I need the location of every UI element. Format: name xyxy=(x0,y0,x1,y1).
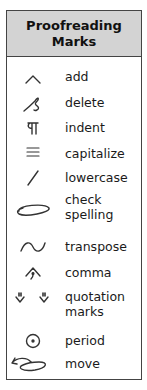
mark-label-multiline: quotation marks xyxy=(65,289,125,319)
mark-label: period xyxy=(65,333,105,348)
mark-row-capitalize: capitalize xyxy=(7,143,141,163)
mark-row-move: move xyxy=(7,354,141,376)
circled-dot-icon xyxy=(11,333,55,349)
delete-loop-icon xyxy=(11,95,55,113)
proofreading-marks-panel: Proofreading Marks add delete indent cap… xyxy=(6,10,142,380)
mark-row-lowercase: lowercase xyxy=(7,167,141,189)
mark-label: transpose xyxy=(65,239,127,254)
tilde-icon xyxy=(11,241,55,253)
mark-label: lowercase xyxy=(65,170,128,185)
mark-label: delete xyxy=(65,95,104,110)
mark-row-period: period xyxy=(7,331,141,353)
inverted-caret-quotes-icon xyxy=(11,292,55,306)
mark-row-indent: indent xyxy=(7,118,141,138)
circle-oval-icon xyxy=(11,203,55,217)
title-line-1: Proofreading xyxy=(26,18,122,34)
mark-label-multiline: check spelling xyxy=(65,192,113,222)
mark-row-transpose: transpose xyxy=(7,237,141,259)
mark-label: comma xyxy=(65,265,112,280)
mark-label: move xyxy=(65,356,100,371)
title-line-2: Marks xyxy=(26,34,122,50)
mark-label: indent xyxy=(65,120,105,135)
paragraph-icon xyxy=(11,120,55,136)
caret-icon xyxy=(11,74,55,84)
mark-row-delete: delete xyxy=(7,93,141,115)
mark-label: add xyxy=(65,69,89,84)
mark-row-add: add xyxy=(7,68,141,88)
mark-row-check-spelling: check spelling xyxy=(7,192,141,226)
move-arrow-icon xyxy=(9,356,53,372)
mark-row-quotation-marks: quotation marks xyxy=(7,289,141,323)
caret-comma-icon xyxy=(11,266,55,280)
triple-underline-icon xyxy=(11,147,55,157)
mark-row-comma: comma xyxy=(7,263,141,285)
panel-header: Proofreading Marks xyxy=(7,11,141,57)
mark-label: capitalize xyxy=(65,146,125,161)
slash-icon xyxy=(11,169,55,187)
